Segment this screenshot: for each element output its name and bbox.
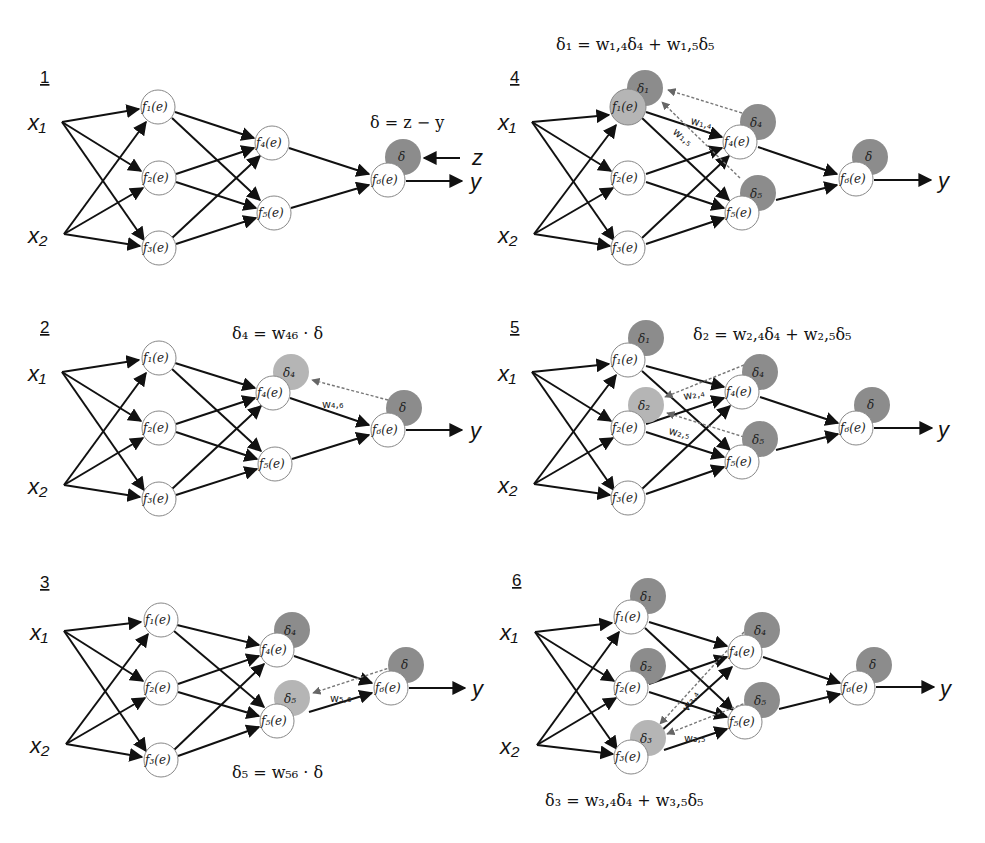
neuron-f4-label: f₄(e) [723,135,750,149]
target-z: z [471,145,483,170]
panel-6: 6 δ₃ = w₃,₄δ₄ + w₃,₅δ₅ w₃,₄ w₃,₅ x₁ x₂ δ… [499,571,953,810]
neurons: f₁(e) f₂(e) f₃(e) f₄(e) f₅(e) f₆(e) [611,343,873,515]
delta-output-label: δ [401,658,408,672]
equation: δ₅ = w₅₆ · δ [232,763,323,782]
weight-label: w₃,₅ [684,732,705,745]
neuron-f5-label: f₅(e) [257,206,284,220]
neuron-f1-label: f₁(e) [614,610,641,624]
weight-label: w₅,₆ [330,692,352,705]
input-x2: x₂ [497,223,518,248]
delta5-label: δ₅ [752,433,764,447]
panel-number: 3 [40,573,49,592]
neuron-f5-label: f₅(e) [725,206,752,220]
output-y: y [936,417,951,442]
neuron-f4-label: f₄(e) [728,645,755,659]
delta-output-label: δ [869,658,876,672]
input-x1: x₁ [497,361,516,386]
output-y: y [468,169,483,194]
delta-output-label: δ [398,150,405,164]
input-x1: x₁ [27,361,46,386]
delta4-label: δ₄ [750,116,762,130]
neuron-f2-label: f₂(e) [144,681,171,695]
neuron-f5-label: f₅(e) [728,715,755,729]
equation: δ₂ = w₂,₄δ₄ + w₂,₅δ₅ [693,325,852,344]
neuron-f6-label: f₆(e) [371,423,398,437]
delta2-label: δ₂ [640,660,652,674]
neuron-f6-label: f₆(e) [371,173,398,187]
neuron-f3-label: f₃(e) [611,241,638,255]
neuron-f3-label: f₃(e) [142,241,169,255]
panel-number: 1 [40,68,49,87]
neuron-f3-label: f₃(e) [614,750,641,764]
delta1-label: δ₁ [638,332,650,346]
panel-1: 1 δ = z − y x₁ x₂ δ f₁(e) [27,68,483,265]
panel-number: 4 [510,68,519,87]
neuron-f6-label: f₆(e) [839,172,866,186]
neuron-f2-label: f₂(e) [142,421,169,435]
delta1-label: δ₁ [640,590,652,604]
neuron-f4-label: f₄(e) [260,643,287,657]
neurons: f₁(e) f₂(e) f₃(e) f₄(e) f₅(e) f₆(e) [141,90,405,265]
neuron-f4-label: f₄(e) [256,386,283,400]
delta-output-label: δ [399,401,406,415]
equation: δ₃ = w₃,₄δ₄ + w₃,₅δ₅ [545,791,704,810]
neuron-f5-label: f₅(e) [725,455,752,469]
neuron-f6-label: f₆(e) [841,681,868,695]
weight-label: w₁,₄ [689,114,713,132]
weight-label: w₄,₆ [322,398,344,411]
neuron-f5-label: f₅(e) [258,457,285,471]
neuron-f1-label: f₁(e) [141,100,168,114]
delta-output-label: δ [867,398,874,412]
panel-number: 6 [512,571,521,590]
neuron-f6-label: f₆(e) [374,681,401,695]
equation: δ₄ = w₄₆ · δ [232,324,323,343]
backprop-edge [668,90,742,113]
output-y: y [470,676,485,701]
weight-label: w₁,₅ [670,125,695,149]
output-y: y [468,418,483,443]
neuron-f2-label: f₂(e) [611,421,638,435]
output-y: y [936,168,951,193]
input-x2: x₂ [497,473,518,498]
delta2-label: δ₂ [638,399,650,413]
input-x2: x₂ [29,733,50,758]
weight-label: w₃,₄ [680,688,703,713]
neuron-f2-label: f₂(e) [614,681,641,695]
input-x1: x₁ [499,620,518,645]
neuron-f3-label: f₃(e) [611,491,638,505]
delta5-label: δ₅ [284,692,296,706]
backprop-edge [312,380,388,400]
neuron-f6-label: f₆(e) [839,421,866,435]
delta5-label: δ₅ [754,694,766,708]
panel-5: 5 δ₂ = w₂,₄δ₄ + w₂,₅δ₅ w₂,₄ w₂,₅ x₁ x₂ δ… [497,318,951,515]
weight-label: w₂,₄ [682,386,706,403]
input-x1: x₁ [27,110,46,135]
neuron-f1-label: f₁(e) [611,353,638,367]
equation: δ₁ = w₁,₄δ₄ + w₁,₅δ₅ [556,35,715,54]
input-x2: x₂ [499,734,520,759]
panel-number: 2 [40,318,49,337]
panel-3: 3 δ₅ = w₅₆ · δ w₅,₆ x₁ x₂ δ₄ δ₅ δ [29,573,485,782]
neuron-f4-label: f₄(e) [255,136,282,150]
output-y: y [938,676,953,701]
delta4-label: δ₄ [283,366,295,380]
panel-2: 2 δ₄ = w₄₆ · δ w₄,₆ x₁ x₂ δ₄ δ [27,318,483,516]
input-x2: x₂ [27,474,48,499]
delta4-label: δ₄ [752,366,764,380]
neuron-f1-label: f₁(e) [142,351,169,365]
delta4-label: δ₄ [754,624,766,638]
neurons: f₁(e) f₂(e) f₃(e) f₄(e) f₅(e) f₆(e) [142,341,405,516]
neuron-f2-label: f₂(e) [611,171,638,185]
equation: δ = z − y [370,113,444,132]
delta-output-label: δ [865,150,872,164]
backprop-diagram: 1 δ = z − y x₁ x₂ δ f₁(e) [0,0,985,843]
neuron-f5-label: f₅(e) [260,714,287,728]
neuron-f4-label: f₄(e) [725,385,752,399]
neuron-f1-label: f₁(e) [144,613,171,627]
neuron-f2-label: f₂(e) [142,171,169,185]
neuron-f3-label: f₃(e) [144,753,171,767]
input-x1: x₁ [29,620,48,645]
input-x1: x₁ [497,110,516,135]
panel-4: 4 δ₁ = w₁,₄δ₄ + w₁,₅δ₅ w₁,₄ w₁,₅ x₁ x₂ δ… [497,35,951,265]
neuron-f3-label: f₃(e) [142,492,169,506]
